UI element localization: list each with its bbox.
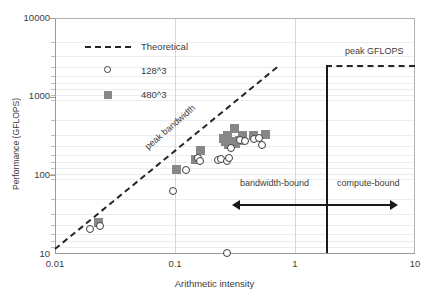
legend: Theoretical 128^3 480^3: [85, 38, 225, 110]
y-tick-label-10000: 10000: [2, 13, 50, 23]
y-tick: [51, 89, 55, 90]
y-tick-label-1000: 1000: [2, 91, 50, 101]
y-tick: [51, 199, 55, 200]
x-axis-title: Arithmetic intensity: [0, 278, 429, 289]
y-tick: [51, 76, 55, 77]
y-tick: [51, 100, 55, 101]
y-tick: [51, 168, 55, 169]
y-tick: [51, 214, 55, 215]
legend-label: 128^3: [141, 65, 167, 76]
gridline-h: [55, 174, 415, 175]
compute-bound-annotation: compute-bound: [337, 178, 400, 188]
y-tick: [51, 120, 55, 121]
data-point-480: [172, 165, 181, 174]
y-tick: [51, 241, 55, 242]
y-tick: [50, 18, 55, 19]
gridline-h: [55, 241, 415, 242]
data-point-128: [225, 154, 233, 162]
data-point-128: [169, 187, 177, 195]
y-tick: [50, 97, 55, 98]
ridge-point-line: [326, 65, 328, 253]
data-point-128: [182, 166, 190, 174]
data-point-128: [227, 144, 235, 152]
legend-item-128: 128^3: [85, 62, 225, 86]
y-tick: [51, 42, 55, 43]
gridline-h: [55, 225, 415, 226]
y-tick: [51, 225, 55, 226]
legend-circle-icon: [104, 66, 111, 73]
data-point-128: [96, 222, 104, 230]
y-tick: [51, 146, 55, 147]
axis-right: [414, 18, 415, 254]
legend-label: 480^3: [141, 89, 167, 100]
bandwidth-bound-annotation: bandwidth-bound: [240, 178, 309, 188]
data-point-128: [86, 225, 94, 233]
gridline-h: [55, 234, 415, 235]
y-tick: [51, 83, 55, 84]
y-tick: [51, 234, 55, 235]
x-tick-label-0.1: 0.1: [155, 259, 195, 269]
x-tick-label-10: 10: [395, 259, 429, 269]
bound-arrow-shaft: [240, 204, 390, 206]
y-tick: [51, 155, 55, 156]
gridline-h: [55, 120, 415, 121]
y-tick: [51, 67, 55, 68]
data-point-128: [241, 137, 249, 145]
gridline-h: [55, 168, 415, 169]
legend-square-icon: [104, 91, 112, 99]
gridline-h: [55, 214, 415, 215]
gridline-h: [55, 247, 415, 248]
axis-top: [55, 18, 415, 19]
y-tick: [51, 162, 55, 163]
roofline-peak-gflops: [326, 65, 415, 67]
legend-item-480: 480^3: [85, 86, 225, 110]
y-tick: [51, 95, 55, 96]
data-point-128: [223, 249, 231, 257]
bound-arrow-head-right: [390, 200, 398, 210]
roofline-chart-figure: Performance (GFLOPS) 10000 1000 100 10 0…: [0, 0, 429, 297]
data-point-128: [196, 157, 204, 165]
gridline-h: [55, 162, 415, 163]
y-tick: [51, 179, 55, 180]
axis-left: [55, 18, 56, 254]
data-point-128: [258, 141, 266, 149]
gridline-v-1: [295, 18, 296, 254]
y-tick: [51, 135, 55, 136]
y-tick: [51, 56, 55, 57]
bound-arrow-head-left: [232, 200, 240, 210]
gridline-h: [55, 155, 415, 156]
y-tick-label-10: 10: [2, 249, 50, 259]
x-tick-label-1: 1: [275, 259, 315, 269]
x-tick-label-0.01: 0.01: [35, 259, 75, 269]
y-tick: [50, 175, 55, 176]
peak-gflops-annotation: peak GFLOPS: [345, 46, 404, 56]
legend-item-theoretical: Theoretical: [85, 38, 225, 62]
legend-label: Theoretical: [141, 41, 188, 52]
axis-bottom: [55, 253, 415, 254]
y-tick-label-100: 100: [2, 170, 50, 180]
legend-dashed-line-icon: [85, 46, 131, 48]
